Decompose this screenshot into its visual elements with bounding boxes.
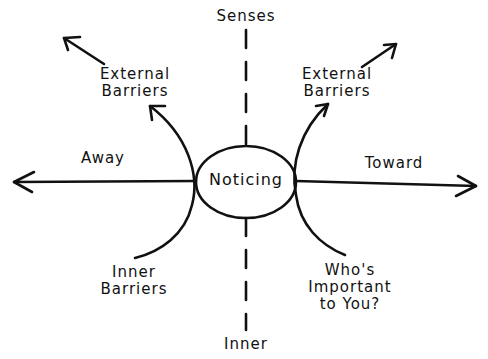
center-label: Noticing [196,171,296,188]
axis-label-left: Away [68,150,138,167]
horizontal-axis-right [296,181,476,186]
top-right-diagonal-arrow [362,44,396,67]
quadrant-label-top-right: External Barriers [282,66,392,100]
axis-label-bottom: Inner [216,336,276,353]
axis-label-top: Senses [206,8,286,25]
quadrant-label-top-left: External Barriers [80,66,190,100]
right-arc [294,104,345,255]
quadrant-label-bottom-left: Inner Barriers [84,264,184,298]
quadrant-label-bottom-right: Who's Important to You? [290,262,410,313]
horizontal-axis-left [14,181,196,182]
top-left-diagonal-arrow [64,38,104,64]
axis-label-right: Toward [354,155,434,172]
